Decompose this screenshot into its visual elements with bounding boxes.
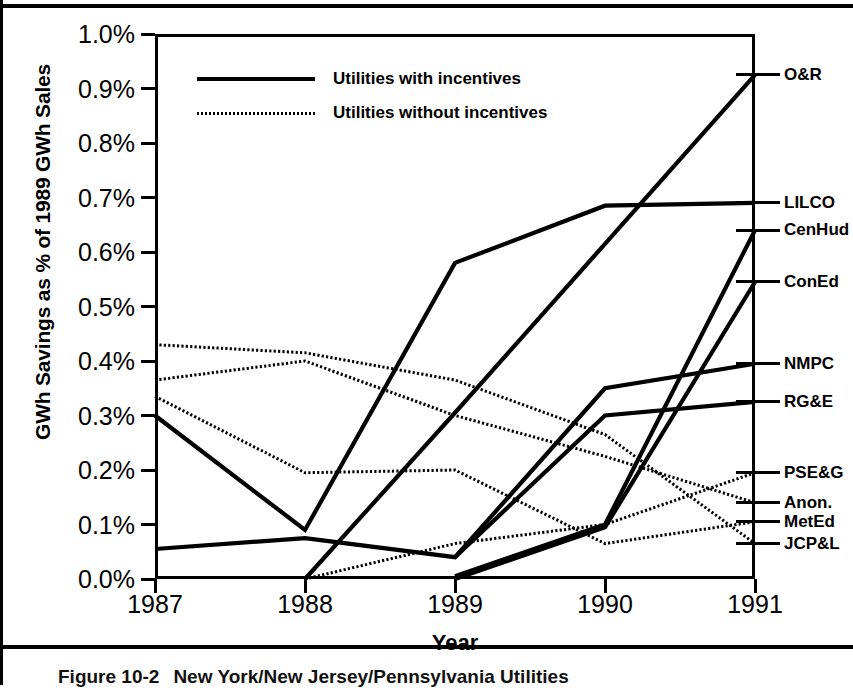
legend-item-with-incentives: Utilities with incentives	[197, 62, 547, 96]
series-line-coned	[455, 282, 755, 579]
series-label-rg-e: RG&E	[784, 392, 833, 412]
series-label-tick	[736, 400, 780, 403]
series-line-jcp-l	[155, 345, 755, 544]
series-line-nmpc	[155, 364, 755, 557]
y-axis-tick-label: 0.1%	[78, 510, 135, 539]
y-axis-tick-label: 0.9%	[78, 74, 135, 103]
series-label-tick	[736, 229, 780, 232]
series-label-anon-: Anon.	[784, 493, 832, 513]
figure-caption-text: New York/New Jersey/Pennsylvania Utiliti…	[173, 666, 568, 687]
series-label-coned: ConEd	[784, 272, 839, 292]
y-axis-tick	[141, 33, 155, 36]
series-line-lilco	[155, 203, 755, 530]
figure-caption: Figure 10-2New York/New Jersey/Pennsylva…	[58, 666, 569, 688]
series-label-tick	[736, 520, 780, 523]
series-label-jcp-l: JCP&L	[784, 534, 840, 554]
y-axis-tick	[141, 305, 155, 308]
y-axis-tick-label: 1.0%	[78, 20, 135, 49]
series-label-o-r: O&R	[784, 65, 822, 85]
series-line-rg-e	[455, 402, 755, 557]
chart-legend: Utilities with incentives Utilities with…	[197, 62, 547, 130]
legend-swatch-solid	[197, 74, 315, 84]
series-label-nmpc: NMPC	[784, 354, 834, 374]
x-axis-tick-label: 1988	[277, 590, 333, 619]
series-line-meted	[155, 396, 755, 543]
series-label-tick	[736, 201, 780, 204]
series-label-tick	[736, 362, 780, 365]
y-axis-tick	[141, 469, 155, 472]
series-label-column: O&RLILCOCenHudConEdNMPCRG&EPSE&GAnon.Met…	[758, 34, 853, 579]
legend-label-without-incentives: Utilities without incentives	[333, 103, 547, 123]
series-line-o-r	[305, 75, 755, 579]
series-label-tick	[736, 501, 780, 504]
series-label-tick	[736, 471, 780, 474]
legend-label-with-incentives: Utilities with incentives	[333, 69, 521, 89]
x-axis-title: Year	[155, 630, 755, 656]
x-axis-tick-label: 1989	[427, 590, 483, 619]
plot-area: 0.0%0.1%0.2%0.3%0.4%0.5%0.6%0.7%0.8%0.9%…	[155, 34, 755, 579]
figure-caption-number: Figure 10-2	[58, 666, 159, 687]
series-label-lilco: LILCO	[784, 193, 835, 213]
y-axis-tick-label: 0.7%	[78, 183, 135, 212]
y-axis-tick-label: 0.6%	[78, 238, 135, 267]
x-axis-tick-label: 1991	[727, 590, 783, 619]
y-axis-tick-label: 0.4%	[78, 347, 135, 376]
y-axis-tick	[141, 87, 155, 90]
y-axis-tick	[141, 196, 155, 199]
y-axis-tick	[141, 251, 155, 254]
y-axis-title: GWh Savings as % of 1989 GWh Sales	[31, 110, 55, 440]
legend-item-without-incentives: Utilities without incentives	[197, 96, 547, 130]
x-axis-tick-label: 1990	[577, 590, 633, 619]
y-axis-tick	[141, 414, 155, 417]
y-axis-tick-label: 0.3%	[78, 401, 135, 430]
chart-figure: GWh Savings as % of 1989 GWh Sales 0.0%0…	[0, 8, 853, 642]
y-axis-tick	[141, 523, 155, 526]
y-axis-tick	[141, 360, 155, 363]
series-label-pse-g: PSE&G	[784, 463, 844, 483]
y-axis-tick-label: 0.8%	[78, 129, 135, 158]
y-axis-tick	[141, 142, 155, 145]
legend-swatch-dotted	[197, 108, 315, 118]
series-label-tick	[736, 73, 780, 76]
series-label-cenhud: CenHud	[784, 220, 849, 240]
y-axis-tick-label: 0.2%	[78, 456, 135, 485]
series-label-tick	[736, 542, 780, 545]
series-label-meted: MetEd	[784, 512, 835, 532]
series-label-tick	[736, 280, 780, 283]
y-axis-tick-label: 0.5%	[78, 292, 135, 321]
x-axis-tick-label: 1987	[127, 590, 183, 619]
